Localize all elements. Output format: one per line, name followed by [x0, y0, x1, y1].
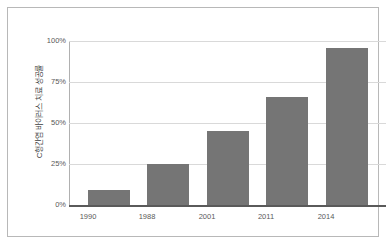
bar-1990 — [88, 190, 130, 205]
gridline-100 — [69, 41, 386, 42]
y-axis-tick-labels: 100% 75% 50% 25% 0% — [28, 41, 66, 205]
y-tick-label-50: 50% — [32, 119, 66, 127]
plot-area — [69, 41, 386, 205]
x-tick-label-1988: 1988 — [117, 212, 177, 221]
bar-2011 — [266, 97, 308, 205]
chart-frame: C형간염 바이러스 치료 성공률 100% 75% 50% 25% 0% 199… — [7, 7, 379, 237]
bar-1988 — [147, 164, 189, 205]
y-tick-label-100: 100% — [32, 37, 66, 45]
x-tick-label-1990: 1990 — [58, 212, 118, 221]
bar-2014 — [326, 48, 368, 205]
x-tick-label-2014: 2014 — [296, 212, 356, 221]
x-axis-line — [69, 205, 386, 207]
y-tick-label-0: 0% — [32, 201, 66, 209]
bar-2001 — [207, 131, 249, 205]
x-tick-label-2011: 2011 — [236, 212, 296, 221]
y-tick-label-75: 75% — [32, 78, 66, 86]
x-tick-label-2001: 2001 — [177, 212, 237, 221]
y-tick-label-25: 25% — [32, 160, 66, 168]
